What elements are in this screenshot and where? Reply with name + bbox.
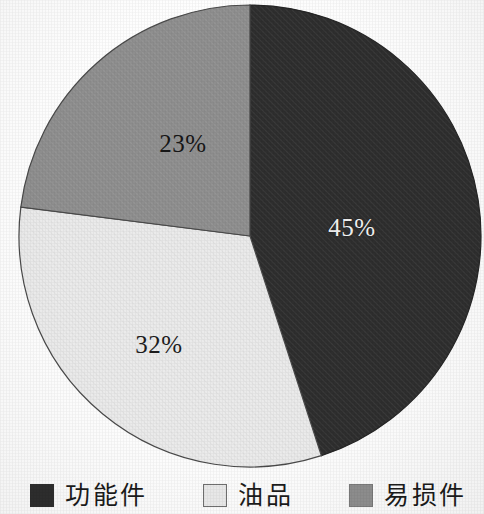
pie-chart-plot-area: 45% 32% 23% <box>0 0 484 474</box>
legend-item-label: 功能件 <box>65 483 148 508</box>
pie-slice-yisunjian[interactable] <box>21 5 250 236</box>
legend-item-label: 油品 <box>238 483 293 508</box>
legend-item-youpin[interactable]: 油品 <box>203 476 293 514</box>
legend-item-gongnengjian[interactable]: 功能件 <box>30 476 148 514</box>
pie-slices <box>19 5 481 467</box>
legend-item-label: 易损件 <box>384 483 467 508</box>
legend-item-yisunjian[interactable]: 易损件 <box>349 476 467 514</box>
legend-swatch-icon <box>349 484 373 507</box>
pie-chart-figure: 45% 32% 23% 功能件 油品 易损件 <box>0 0 484 514</box>
chart-legend: 功能件 油品 易损件 <box>0 476 484 514</box>
legend-swatch-icon <box>203 484 227 507</box>
legend-swatch-icon <box>30 484 54 507</box>
pie-chart-svg <box>0 0 484 474</box>
